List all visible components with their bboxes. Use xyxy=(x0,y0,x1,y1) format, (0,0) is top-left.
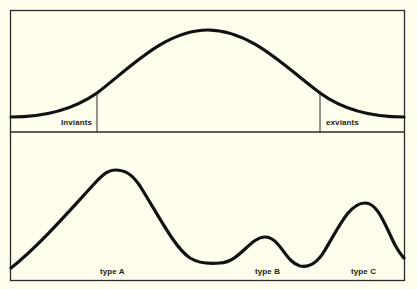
exviants-label: exviants xyxy=(326,118,359,127)
multimodal-curve xyxy=(11,170,404,268)
diagram-canvas xyxy=(0,0,417,289)
type-a-label: type A xyxy=(100,267,125,276)
type-c-label: type C xyxy=(351,267,376,276)
inviants-label: Inviants xyxy=(61,118,92,127)
outer-frame xyxy=(11,11,405,281)
type-b-label: type B xyxy=(255,267,280,276)
bell-curve xyxy=(11,30,404,117)
